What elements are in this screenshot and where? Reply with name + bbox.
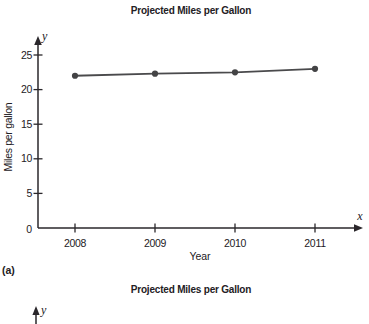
x-tick-label: 2008	[53, 237, 97, 250]
chart-b-y-axis-letter: y	[41, 303, 46, 318]
x-tick-label: 2009	[133, 237, 177, 250]
y-tick-label: 15	[6, 118, 32, 131]
x-axis-arrowhead	[354, 224, 363, 232]
y-tick-label: 10	[6, 152, 32, 165]
x-axis-label: Year	[30, 250, 369, 262]
chart-b-title: Projected Miles per Gallon	[26, 284, 356, 295]
data-point	[72, 73, 78, 79]
textbook-figure-page: Projected Miles per Gallon Miles per gal…	[0, 0, 369, 324]
chart-a-title: Projected Miles per Gallon	[26, 5, 356, 16]
x-axis-letter: x	[352, 209, 368, 224]
y-tick-label: 5	[6, 187, 32, 200]
y-axis-arrowhead	[34, 36, 42, 45]
origin-tick-label: 0	[6, 223, 32, 235]
y-axis-letter: y	[42, 29, 47, 44]
y-tick-label: 25	[6, 49, 32, 62]
figure-a-label: (a)	[2, 264, 15, 276]
figure-b-y-axis-arrowhead	[32, 306, 39, 315]
line-chart-canvas	[0, 0, 369, 324]
data-point	[232, 69, 238, 75]
y-tick-label: 20	[6, 83, 32, 96]
x-tick-label: 2010	[213, 237, 257, 250]
data-point	[152, 71, 158, 77]
data-point	[312, 66, 318, 72]
mpg-line-series	[75, 69, 315, 76]
x-tick-label: 2011	[293, 237, 337, 250]
